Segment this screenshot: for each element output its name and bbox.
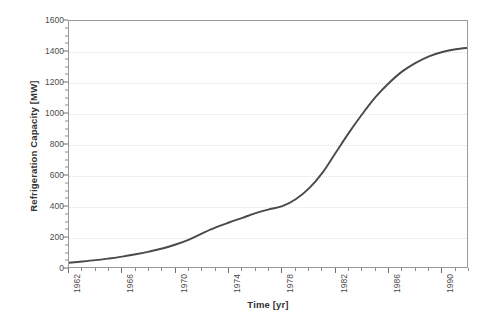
x-axis-minor-tick: [95, 268, 96, 271]
x-axis-minor-tick: [415, 268, 416, 271]
x-axis-minor-tick: [321, 268, 322, 271]
x-axis-minor-tick: [201, 268, 202, 271]
x-axis-minor-tick: [348, 268, 349, 271]
x-axis-tick-label: 1970: [179, 274, 189, 293]
x-axis-minor-tick: [455, 268, 456, 271]
x-axis-minor-tick: [161, 268, 162, 271]
x-axis-tick-label: 1974: [232, 274, 242, 293]
x-axis-tick-label: 1978: [285, 274, 295, 293]
x-axis-minor-tick: [241, 268, 242, 271]
chart-figure: Refrigeration Capacity [MW] 020040060080…: [0, 0, 492, 324]
x-axis-minor-tick: [148, 268, 149, 271]
y-axis-tick-label: 1200: [18, 77, 64, 87]
x-axis-tick-labels: 19621966197019741978198219861990: [68, 274, 468, 300]
y-axis-tick-label: 1400: [18, 46, 64, 56]
x-axis-tick: [68, 268, 69, 273]
y-axis-tick-label: 600: [18, 170, 64, 180]
x-axis-tick: [228, 268, 229, 273]
x-axis-minor-tick: [268, 268, 269, 271]
x-axis-tick-label: 1990: [445, 274, 455, 293]
x-axis-tick-label: 1986: [392, 274, 402, 293]
x-axis-minor-tick: [468, 268, 469, 271]
x-axis-minor-tick: [255, 268, 256, 271]
x-axis-tick-label: 1982: [339, 274, 349, 293]
x-axis-minor-tick: [81, 268, 82, 271]
x-axis-minor-tick: [375, 268, 376, 271]
x-axis-tick-label: 1966: [125, 274, 135, 293]
x-axis-minor-tick: [108, 268, 109, 271]
x-axis-minor-tick: [428, 268, 429, 271]
data-series-line: [69, 21, 468, 268]
x-axis-minor-tick: [308, 268, 309, 271]
y-axis-tick-label: 1000: [18, 108, 64, 118]
x-axis-tick: [121, 268, 122, 273]
x-axis-minor-tick: [188, 268, 189, 271]
x-axis-title: Time [yr]: [68, 299, 468, 310]
x-axis-tick-label: 1962: [72, 274, 82, 293]
x-axis-minor-tick: [361, 268, 362, 271]
x-axis-tick: [175, 268, 176, 273]
x-axis-tick: [281, 268, 282, 273]
x-axis-tick: [441, 268, 442, 273]
x-axis-minor-tick: [401, 268, 402, 271]
y-axis-tick-labels: 02004006008001000120014001600: [12, 20, 64, 268]
x-axis-tick: [388, 268, 389, 273]
x-axis-minor-tick: [295, 268, 296, 271]
x-axis-tick: [335, 268, 336, 273]
refrigeration-capacity-curve: [69, 48, 468, 263]
y-axis-tick-label: 800: [18, 139, 64, 149]
plot-area: [68, 20, 468, 268]
y-axis-tick-label: 1600: [18, 15, 64, 25]
x-axis-minor-tick: [215, 268, 216, 271]
y-axis-tick-label: 400: [18, 201, 64, 211]
y-axis-tick-label: 200: [18, 232, 64, 242]
y-axis-tick-label: 0: [18, 263, 64, 273]
x-axis-minor-tick: [135, 268, 136, 271]
